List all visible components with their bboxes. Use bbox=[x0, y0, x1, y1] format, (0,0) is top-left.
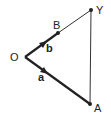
point-y-dot bbox=[89, 8, 93, 12]
label-vector-a: a bbox=[38, 71, 45, 83]
label-o: O bbox=[10, 51, 19, 63]
vector-diagram: O B Y A b a bbox=[0, 0, 111, 115]
point-a-dot bbox=[88, 102, 92, 106]
point-b-dot bbox=[56, 31, 60, 35]
label-b-point: B bbox=[53, 19, 60, 31]
segment-b-y bbox=[58, 10, 91, 33]
label-a-point: A bbox=[94, 102, 102, 114]
segment-y-a bbox=[90, 10, 91, 104]
vector-a-line bbox=[25, 57, 90, 104]
label-vector-b: b bbox=[46, 42, 53, 54]
label-y: Y bbox=[96, 4, 104, 16]
